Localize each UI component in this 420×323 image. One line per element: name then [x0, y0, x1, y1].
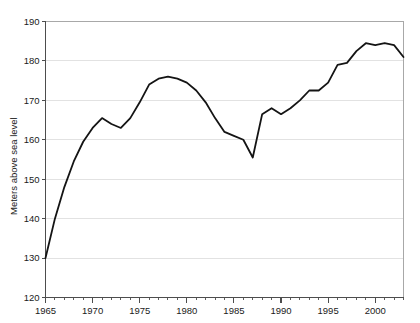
y-tick-label: 170 [24, 95, 40, 106]
data-series-group [46, 43, 404, 258]
line-chart: 120130140150160170180190 196519701975198… [0, 0, 420, 323]
plot-frame [46, 22, 404, 298]
chart-container: 120130140150160170180190 196519701975198… [0, 0, 420, 323]
y-tick-label: 140 [24, 213, 40, 224]
x-tick-label: 1990 [270, 305, 291, 316]
y-tick-label: 180 [24, 55, 40, 66]
x-tick-label: 1985 [223, 305, 244, 316]
y-tick-label: 130 [24, 252, 40, 263]
y-tick-label: 160 [24, 134, 40, 145]
x-tick-label: 1970 [82, 305, 103, 316]
x-tick-label: 1965 [35, 305, 56, 316]
x-axis-tick-labels: 19651970197519801985199019952000 [35, 305, 386, 316]
y-tick-label: 150 [24, 174, 40, 185]
y-axis-title: Meters above sea level [8, 117, 19, 215]
data-line-water-level [46, 43, 404, 258]
x-tick-label: 1980 [176, 305, 197, 316]
x-tick-label: 2000 [365, 305, 386, 316]
x-tick-label: 1975 [129, 305, 150, 316]
y-tick-label: 120 [24, 292, 40, 303]
x-axis-ticks-group [46, 298, 404, 303]
x-tick-label: 1995 [318, 305, 339, 316]
y-tick-label: 190 [24, 16, 40, 27]
gridlines-group [46, 22, 404, 259]
y-axis-tick-labels: 120130140150160170180190 [24, 16, 40, 303]
